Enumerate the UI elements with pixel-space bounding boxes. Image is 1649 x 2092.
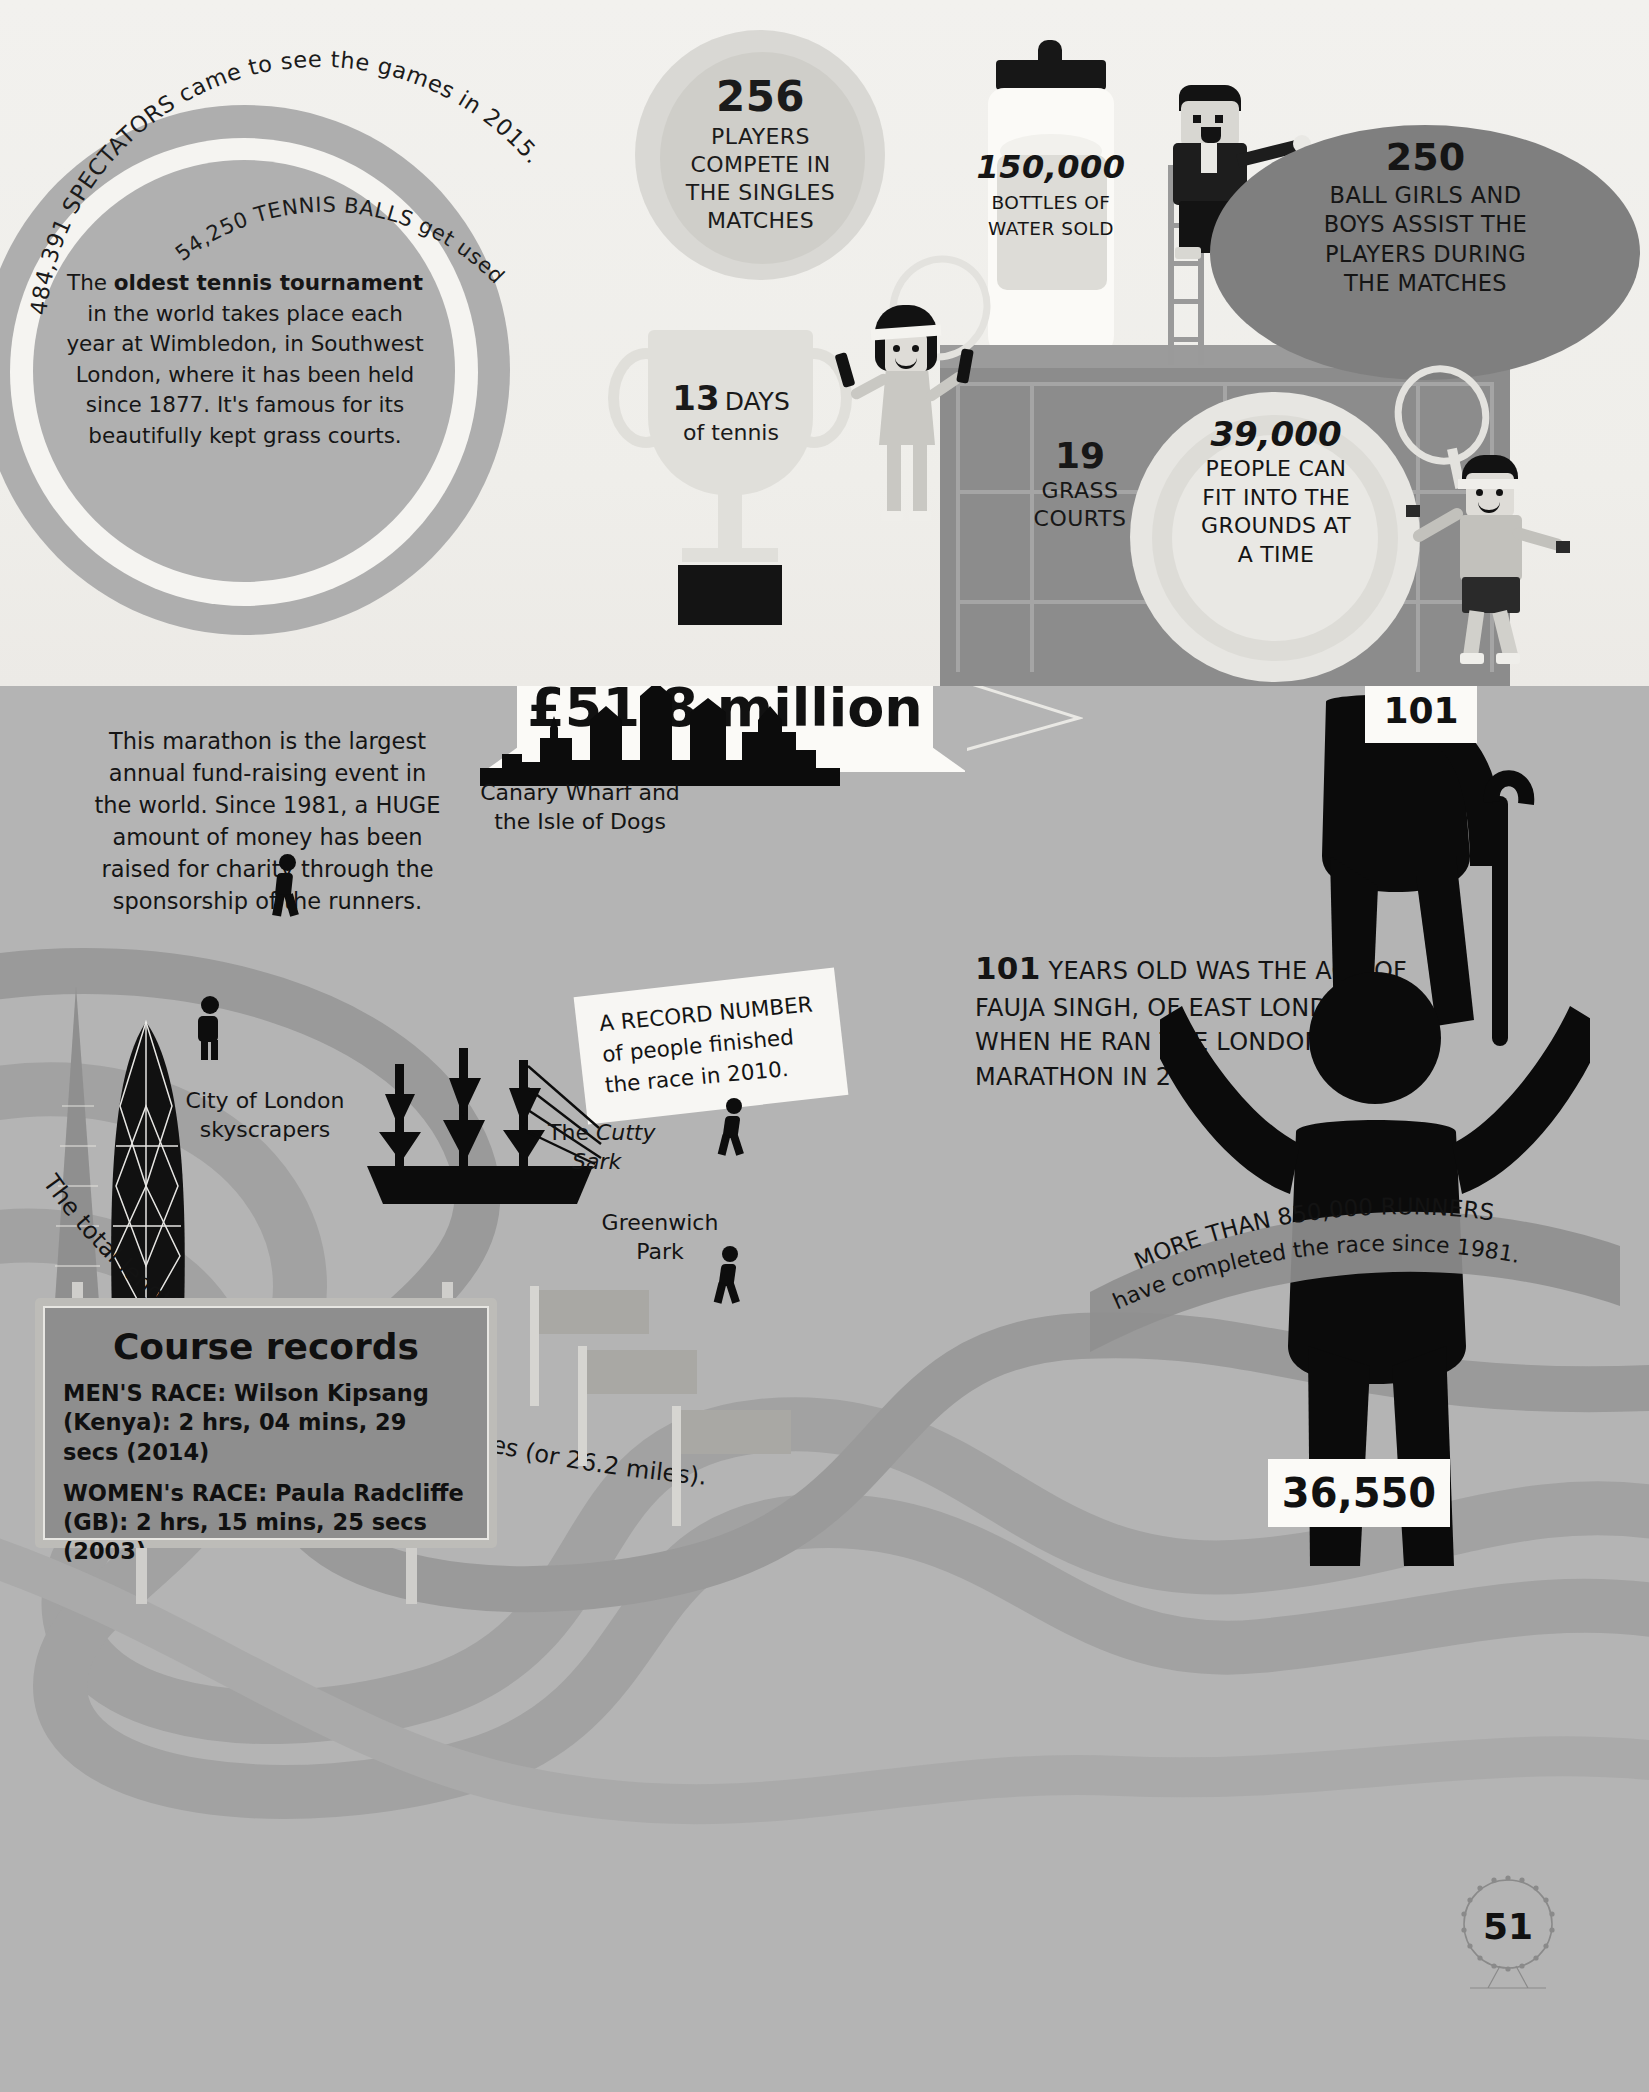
bottles-stat: 150,000 BOTTLES OF WATER SOLD — [955, 148, 1147, 241]
ballkids-number: 250 — [1218, 135, 1633, 179]
banner-tether — [963, 686, 1083, 774]
course-record-men: MEN'S RACE: Wilson Kipsang (Kenya): 2 hr… — [63, 1379, 469, 1467]
grass-courts-number: 19 — [1000, 435, 1160, 476]
days-number: 13 — [672, 378, 719, 418]
ballkids-line-1: BALL GIRLS AND — [1218, 181, 1633, 210]
players-number: 256 — [648, 72, 873, 121]
pedestrian-icon-2 — [190, 996, 230, 1056]
bottles-line-1: BOTTLES OF — [955, 190, 1147, 216]
bottles-number: 150,000 — [955, 148, 1147, 186]
players-line-3: THE SINGLES — [648, 179, 873, 207]
wimbledon-paragraph: The oldest tennis tournament in the worl… — [60, 268, 430, 451]
cutty-sark-label-name: Cutty — [596, 1120, 656, 1145]
female-player-figure — [855, 305, 975, 535]
cutty-sark-label: The Cutty Sark — [548, 1118, 728, 1176]
pedestrian-icon-4 — [712, 1246, 752, 1302]
capacity-line-4: A TIME — [1145, 541, 1407, 570]
ballkids-line-3: PLAYERS DURING — [1218, 240, 1633, 269]
pedestrian-icon-1 — [268, 854, 308, 914]
bottles-line-2: WATER SOLD — [955, 216, 1147, 242]
cutty-sark-label-prefix: The — [548, 1120, 596, 1145]
fauja-age: 101 — [975, 950, 1041, 986]
days-sub: of tennis — [655, 420, 807, 445]
course-records-board: Course records MEN'S RACE: Wilson Kipsan… — [35, 1298, 497, 1548]
trophy-illustration: 13 DAYS of tennis — [600, 330, 860, 660]
cutty-sark-label-name-2: Sark — [572, 1149, 621, 1174]
canary-wharf-label: Canary Wharf and the Isle of Dogs — [440, 778, 720, 836]
city-skyscrapers-label: City of London skyscrapers — [150, 1086, 380, 1144]
city-label-line-2: skyscrapers — [150, 1115, 380, 1144]
capacity-line-3: GROUNDS AT — [1145, 512, 1407, 541]
canary-wharf-label-line-1: Canary Wharf and — [440, 778, 720, 807]
board-post-left-bottom — [136, 1548, 147, 1604]
days-unit: DAYS — [725, 387, 790, 416]
marathon-section: This marathon is the largest annual fund… — [0, 686, 1649, 2092]
pedestrian-icon-3 — [716, 1098, 756, 1154]
players-stat: 256 PLAYERS COMPETE IN THE SINGLES MATCH… — [648, 72, 873, 235]
tennis-section: 484,391 SPECTATORS came to see the games… — [0, 0, 1649, 686]
trophy-plinth — [678, 565, 782, 625]
canary-wharf-label-line-2: the Isle of Dogs — [440, 807, 720, 836]
players-line-1: PLAYERS — [648, 123, 873, 151]
wimbledon-rest: in the world takes place each year at Wi… — [66, 301, 423, 448]
capacity-number: 39,000 — [1145, 414, 1407, 454]
players-line-4: MATCHES — [648, 207, 873, 235]
trophy-base — [682, 548, 778, 562]
days-stat: 13 DAYS of tennis — [655, 378, 807, 445]
capacity-line-1: PEOPLE CAN — [1145, 455, 1407, 484]
players-line-2: COMPETE IN — [648, 151, 873, 179]
trophy-stem — [718, 490, 742, 550]
page-number-badge — [1448, 1866, 1568, 1996]
city-label-line-1: City of London — [150, 1086, 380, 1115]
male-player-figure — [1440, 455, 1590, 675]
bottle-cap — [996, 60, 1106, 90]
course-records-title: Course records — [63, 1326, 469, 1367]
ballkids-line-4: THE MATCHES — [1218, 269, 1633, 298]
board-post-right-bottom — [406, 1548, 417, 1604]
wimbledon-intro: The — [67, 270, 114, 295]
runner-bib-36550: 36,550 — [1268, 1459, 1450, 1527]
ballkids-line-2: BOYS ASSIST THE — [1218, 210, 1633, 239]
wimbledon-bold: oldest tennis tournament — [114, 270, 423, 295]
capacity-stat: 39,000 PEOPLE CAN FIT INTO THE GROUNDS A… — [1145, 414, 1407, 569]
infographic-page: 484,391 SPECTATORS came to see the games… — [0, 0, 1649, 2092]
greenwich-label-line-1: Greenwich — [560, 1208, 760, 1237]
ballkids-stat: 250 BALL GIRLS AND BOYS ASSIST THE PLAYE… — [1218, 135, 1633, 298]
capacity-line-2: FIT INTO THE — [1145, 484, 1407, 513]
runner-bib-101: 101 — [1365, 686, 1477, 743]
